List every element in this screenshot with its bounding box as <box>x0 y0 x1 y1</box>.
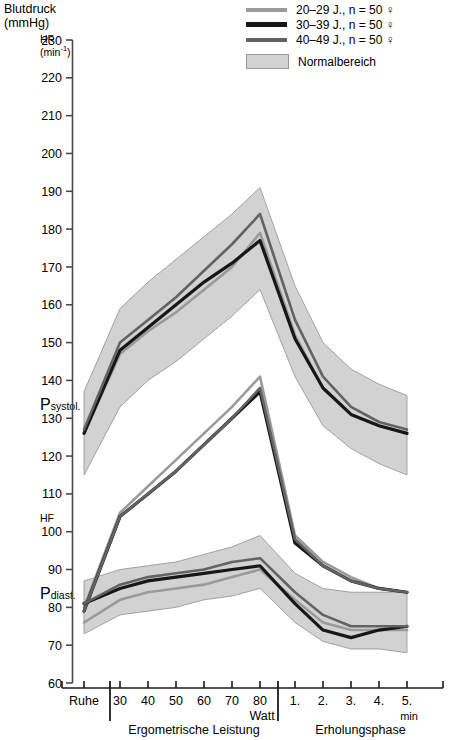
x-axis-tick-label: 50 <box>169 694 183 708</box>
x-axis-tick-label: 4. <box>374 694 384 708</box>
x-axis-tick-label: 80 <box>253 694 267 708</box>
x-axis-phase1-label: Ergometrische Leistung <box>128 723 259 737</box>
x-axis-unit-watt: Watt <box>249 709 275 723</box>
y-axis-tick-label: 230 <box>41 34 62 48</box>
x-axis-tick-label: 2. <box>318 694 328 708</box>
x-axis-unit-min: min <box>400 710 418 722</box>
y-axis-tick-label: 80 <box>48 601 62 615</box>
y-axis-tick-label: 180 <box>41 223 62 237</box>
x-axis-tick-label: 3. <box>346 694 356 708</box>
y-axis-tick-label: 120 <box>41 450 62 464</box>
y-axis-tick-label: 130 <box>41 412 62 426</box>
chart-canvas: 2302202102001901801701601501401301201101… <box>0 0 454 740</box>
y-axis-tick-label: 110 <box>42 487 62 501</box>
x-axis-tick-label: 40 <box>141 694 155 708</box>
x-axis-tick-label: Ruhe <box>69 694 99 708</box>
y-axis-tick-label: 70 <box>48 639 62 653</box>
y-axis-tick-label: 140 <box>41 374 62 388</box>
y-axis-tick-label: 220 <box>41 71 62 85</box>
x-axis-tick-label: 70 <box>225 694 239 708</box>
x-axis-phase2-label: Erholungsphase <box>315 723 405 737</box>
y-axis-tick-label: 160 <box>41 298 62 312</box>
y-axis-tick-label: 190 <box>41 185 62 199</box>
x-axis-tick-label: 1. <box>290 694 300 708</box>
x-axis-tick-label: 5. <box>402 694 412 708</box>
x-axis-tick-label: 30 <box>113 694 127 708</box>
y-axis-tick-label: 150 <box>41 336 62 350</box>
y-axis-tick-label: 90 <box>48 563 62 577</box>
chart-figure: Blutdruck (mmHg) HF (min-1) HF Psystol. … <box>0 0 454 740</box>
x-axis-tick-label: 60 <box>197 694 211 708</box>
y-axis-tick-label: 170 <box>41 261 62 275</box>
y-axis-tick-label: 200 <box>41 147 62 161</box>
y-axis-tick-label: 60 <box>48 677 62 691</box>
y-axis-tick-label: 100 <box>41 525 62 539</box>
y-axis-tick-label: 210 <box>41 109 62 123</box>
